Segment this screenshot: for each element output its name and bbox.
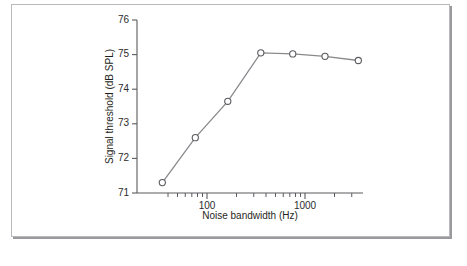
y-tick-label: 73 xyxy=(118,117,130,128)
data-point-marker xyxy=(225,98,231,104)
data-point-marker xyxy=(159,180,165,186)
chart-svg: 7172737475761001000Noise bandwidth (Hz)S… xyxy=(0,0,467,266)
series-line xyxy=(162,53,358,183)
data-point-marker xyxy=(355,57,361,63)
y-axis-title: Signal threshold (dB SPL) xyxy=(104,49,115,164)
y-tick-label: 76 xyxy=(118,14,130,25)
chart-plot: 7172737475761001000Noise bandwidth (Hz)S… xyxy=(0,0,467,266)
data-point-marker xyxy=(322,53,328,59)
y-tick-label: 71 xyxy=(118,187,130,198)
data-point-marker xyxy=(290,51,296,57)
data-point-marker xyxy=(258,50,264,56)
x-axis-title: Noise bandwidth (Hz) xyxy=(202,210,298,221)
y-tick-label: 74 xyxy=(118,83,130,94)
y-tick-label: 72 xyxy=(118,152,130,163)
data-point-marker xyxy=(192,135,198,141)
y-tick-label: 75 xyxy=(118,48,130,59)
